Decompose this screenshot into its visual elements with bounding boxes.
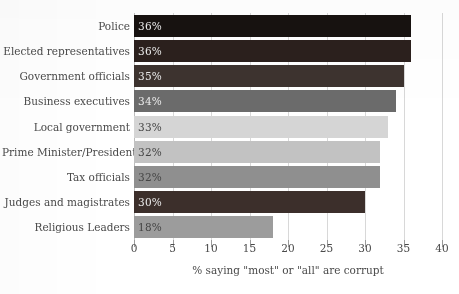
bar-value-label: 30% <box>138 197 162 208</box>
bar: 18% <box>134 216 273 238</box>
bar: 33% <box>134 116 388 138</box>
x-tick-label: 20 <box>281 243 294 254</box>
bar-value-label: 18% <box>138 222 162 233</box>
bar-row: 36% <box>134 40 442 62</box>
bar: 30% <box>134 191 365 213</box>
bar: 34% <box>134 90 396 112</box>
bar: 36% <box>134 15 411 37</box>
bar-chart: PoliceElected representativesGovernment … <box>0 0 459 294</box>
x-tick-label: 5 <box>169 243 176 254</box>
category-label: Local government <box>2 122 130 133</box>
bar-row: 34% <box>134 90 442 112</box>
x-tick-label: 15 <box>243 243 256 254</box>
value-axis-labels: 0510152025303540 <box>134 243 442 259</box>
bar-value-label: 34% <box>138 96 162 107</box>
bar-value-label: 35% <box>138 71 162 82</box>
gridline-40 <box>442 13 443 240</box>
x-tick-label: 25 <box>320 243 333 254</box>
category-label: Business executives <box>2 96 130 107</box>
bar-row: 35% <box>134 65 442 87</box>
category-axis-labels: PoliceElected representativesGovernment … <box>0 13 130 240</box>
x-tick-label: 0 <box>131 243 138 254</box>
category-label: Judges and magistrates <box>2 197 130 208</box>
category-label: Religious Leaders <box>2 222 130 233</box>
plot-area: 36%36%35%34%33%32%32%30%18% <box>134 13 442 240</box>
category-label: Tax officials <box>2 172 130 183</box>
x-tick-label: 35 <box>397 243 410 254</box>
x-tick-label: 10 <box>204 243 217 254</box>
bar: 36% <box>134 40 411 62</box>
bar-value-label: 33% <box>138 121 162 132</box>
category-label: Police <box>2 21 130 32</box>
bar-value-label: 36% <box>138 20 162 31</box>
bar-row: 32% <box>134 166 442 188</box>
x-axis-title: % saying "most" or "all" are corrupt <box>134 264 442 276</box>
bar: 35% <box>134 65 404 87</box>
bar-row: 33% <box>134 116 442 138</box>
bar: 32% <box>134 141 380 163</box>
category-label: Government officials <box>2 71 130 82</box>
bar-row: 30% <box>134 191 442 213</box>
bar-row: 32% <box>134 141 442 163</box>
x-tick-label: 30 <box>358 243 371 254</box>
category-label: Elected representatives <box>2 46 130 57</box>
bar-row: 36% <box>134 15 442 37</box>
bar-value-label: 36% <box>138 46 162 57</box>
bar-value-label: 32% <box>138 172 162 183</box>
category-label: Prime Minister/President <box>2 147 130 158</box>
x-tick-label: 40 <box>435 243 448 254</box>
bar-row: 18% <box>134 216 442 238</box>
bar-value-label: 32% <box>138 146 162 157</box>
bar: 32% <box>134 166 380 188</box>
